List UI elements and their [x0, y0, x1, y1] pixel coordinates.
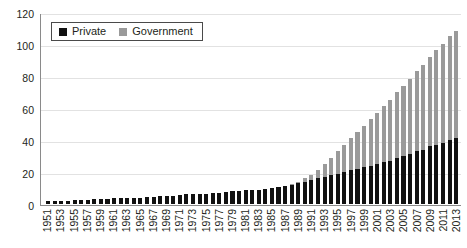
bar-1976: [209, 14, 216, 204]
bar-segment-private: [290, 185, 294, 204]
bar-segment-government: [448, 36, 452, 140]
plot-area: [40, 14, 461, 206]
x-tick-slot-1965: 1965: [136, 208, 143, 248]
bar-segment-private: [211, 193, 215, 204]
bar-1972: [183, 14, 190, 204]
bar-1974: [196, 14, 203, 204]
x-tick-slot-1993: 1993: [321, 208, 328, 248]
bar-segment-private: [408, 154, 412, 204]
bar-1990: [302, 14, 309, 204]
bar-1973: [190, 14, 197, 204]
x-tick-slot-1983: 1983: [255, 208, 262, 248]
bar-1970: [170, 14, 177, 204]
bar-series-container: [42, 14, 461, 204]
y-axis-tick-60: 60: [2, 105, 34, 116]
bar-segment-private: [382, 162, 386, 204]
bar-segment-private: [217, 193, 221, 204]
bar-segment-private: [263, 189, 267, 204]
bar-segment-private: [355, 169, 359, 204]
bar-segment-private: [434, 145, 438, 204]
bar-segment-private: [309, 180, 313, 204]
bar-2013: [453, 14, 460, 204]
bar-segment-private: [99, 199, 103, 204]
x-tick-slot-1985: 1985: [268, 208, 275, 248]
bar-segment-government: [415, 71, 419, 151]
x-tick-slot-1953: 1953: [57, 208, 64, 248]
bar-1987: [282, 14, 289, 204]
x-tick-slot-1951: 1951: [44, 208, 51, 248]
bar-1988: [288, 14, 295, 204]
bar-1998: [354, 14, 361, 204]
bar-1954: [65, 14, 72, 204]
bar-2010: [433, 14, 440, 204]
x-tick-slot-1957: 1957: [84, 208, 91, 248]
bar-segment-government: [408, 79, 412, 154]
bar-1994: [328, 14, 335, 204]
bar-segment-private: [178, 195, 182, 204]
bar-segment-private: [283, 186, 287, 204]
bar-segment-private: [145, 197, 149, 204]
bar-2008: [420, 14, 427, 204]
x-tick-slot-2007: 2007: [413, 208, 420, 248]
x-tick-slot-1997: 1997: [347, 208, 354, 248]
bar-1995: [334, 14, 341, 204]
bar-1996: [341, 14, 348, 204]
bar-1965: [137, 14, 144, 204]
bar-segment-private: [59, 201, 63, 204]
bar-segment-private: [92, 199, 96, 204]
bar-segment-government: [401, 86, 405, 156]
x-tick-slot-1963: 1963: [123, 208, 130, 248]
bar-1959: [98, 14, 105, 204]
bar-2009: [427, 14, 434, 204]
bar-segment-private: [112, 198, 116, 204]
bar-segment-private: [66, 201, 70, 204]
x-tick-slot-2001: 2001: [374, 208, 381, 248]
bar-segment-government: [316, 170, 320, 178]
bar-segment-private: [323, 177, 327, 204]
x-tick-slot-2013: 2013: [453, 208, 460, 248]
bar-segment-private: [448, 140, 452, 204]
bar-segment-private: [171, 196, 175, 204]
bar-segment-private: [244, 190, 248, 204]
legend-item-private: Private: [59, 26, 106, 37]
bar-segment-private: [250, 190, 254, 204]
bar-1962: [117, 14, 124, 204]
bar-1967: [150, 14, 157, 204]
x-tick-slot-2003: 2003: [387, 208, 394, 248]
bar-1980: [236, 14, 243, 204]
bar-segment-private: [441, 143, 445, 204]
x-tick-slot-2009: 2009: [426, 208, 433, 248]
bar-segment-private: [184, 194, 188, 204]
bar-segment-private: [375, 164, 379, 204]
bar-segment-private: [73, 200, 77, 204]
bar-segment-private: [369, 166, 373, 204]
x-tick-slot-1979: 1979: [229, 208, 236, 248]
bar-segment-private: [349, 170, 353, 204]
x-tick-slot-1969: 1969: [163, 208, 170, 248]
bar-segment-private: [401, 156, 405, 204]
legend-label-private: Private: [72, 26, 106, 37]
x-axis-tick-labels: 1951195319551957195919611963196519671969…: [41, 208, 461, 248]
bar-segment-private: [152, 197, 156, 204]
bar-1975: [203, 14, 210, 204]
bar-1978: [223, 14, 230, 204]
x-tick-slot-1989: 1989: [295, 208, 302, 248]
x-tick-slot-1987: 1987: [281, 208, 288, 248]
bar-segment-private: [165, 196, 169, 204]
bar-1968: [157, 14, 164, 204]
bar-1969: [163, 14, 170, 204]
bar-segment-private: [138, 198, 142, 204]
bar-1953: [58, 14, 65, 204]
bar-segment-government: [362, 126, 366, 168]
bar-segment-private: [454, 138, 458, 204]
bar-segment-private: [132, 198, 136, 204]
bar-segment-private: [329, 175, 333, 204]
x-tick-slot-2005: 2005: [400, 208, 407, 248]
bar-1991: [308, 14, 315, 204]
bar-2005: [400, 14, 407, 204]
y-axis-tick-120: 120: [2, 9, 34, 20]
bar-1971: [177, 14, 184, 204]
bar-segment-private: [336, 174, 340, 204]
y-axis-tick-40: 40: [2, 137, 34, 148]
stacked-bar-chart: 020406080100120 195119531955195719591961…: [0, 0, 467, 248]
